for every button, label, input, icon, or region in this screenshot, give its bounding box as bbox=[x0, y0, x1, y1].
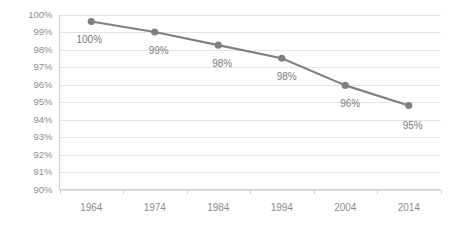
y-tick-label: 97% bbox=[33, 61, 53, 72]
data-point-marker bbox=[215, 42, 222, 49]
line-chart: 90%91%92%93%94%95%96%97%98%99%100% 19641… bbox=[0, 0, 455, 230]
x-tick-label: 1994 bbox=[271, 202, 294, 213]
data-point-marker bbox=[405, 102, 412, 109]
y-tick-label: 90% bbox=[33, 184, 53, 195]
data-point-marker bbox=[88, 18, 95, 25]
y-tick-label: 95% bbox=[33, 96, 53, 107]
data-point-label: 100% bbox=[76, 34, 102, 45]
data-point-label: 99% bbox=[149, 45, 169, 56]
y-tick-label: 91% bbox=[33, 166, 53, 177]
data-point-label: 95% bbox=[403, 120, 423, 131]
y-tick-label: 99% bbox=[33, 26, 53, 37]
data-point-label: 98% bbox=[277, 71, 297, 82]
data-point-marker bbox=[342, 82, 349, 89]
x-tick-label: 1984 bbox=[207, 202, 230, 213]
data-point-label: 96% bbox=[340, 98, 360, 109]
data-point-marker bbox=[151, 28, 158, 35]
x-tick-label: 2004 bbox=[334, 202, 357, 213]
data-point-label: 98% bbox=[212, 58, 232, 69]
y-tick-label: 96% bbox=[33, 79, 53, 90]
y-tick-label: 93% bbox=[33, 131, 53, 142]
x-tick-label: 1964 bbox=[80, 202, 103, 213]
y-tick-label: 92% bbox=[33, 149, 53, 160]
y-tick-label: 94% bbox=[33, 114, 53, 125]
y-tick-label: 98% bbox=[33, 44, 53, 55]
plot-background bbox=[0, 0, 455, 230]
x-tick-label: 2014 bbox=[398, 202, 421, 213]
data-point-marker bbox=[278, 55, 285, 62]
x-tick-label: 1974 bbox=[144, 202, 167, 213]
y-tick-label: 100% bbox=[28, 9, 53, 20]
chart-canvas: 90%91%92%93%94%95%96%97%98%99%100% 19641… bbox=[0, 0, 455, 230]
